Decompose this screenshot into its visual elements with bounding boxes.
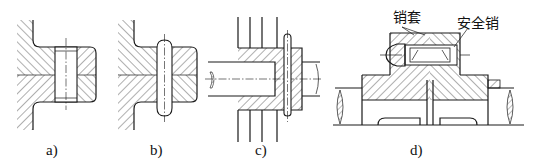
- panel-d-caption: d): [410, 143, 423, 158]
- panel-b-drawing: [118, 20, 197, 130]
- panel-c-drawing: [205, 17, 322, 142]
- panel-b-caption: b): [150, 143, 163, 158]
- pin-sleeve-label: 销套: [393, 10, 421, 24]
- panel-a-caption: a): [46, 143, 58, 158]
- technical-drawing: [0, 0, 534, 167]
- safety-pin-label: 安全销: [457, 16, 499, 30]
- panel-d-drawing: [333, 27, 524, 125]
- pin-connection-figure: 销套 安全销 a) b) c) d): [0, 0, 534, 167]
- panel-a-drawing: [17, 20, 96, 130]
- panel-c-caption: c): [255, 143, 267, 158]
